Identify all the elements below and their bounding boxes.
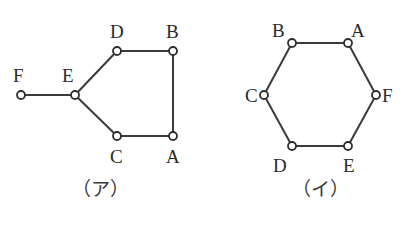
graph-node-b xyxy=(169,47,177,55)
graph-edge-f-e xyxy=(348,95,376,146)
graph-node-e xyxy=(344,142,352,150)
node-label-d: D xyxy=(110,21,124,42)
graph-edge-e-d xyxy=(75,51,117,95)
graph-node-c xyxy=(260,91,268,99)
node-label-c: C xyxy=(245,85,258,106)
node-label-b: B xyxy=(272,20,285,41)
figure-i: BACFDE（イ） xyxy=(245,20,393,200)
graph-node-a xyxy=(169,132,177,140)
node-label-f: F xyxy=(382,85,393,106)
node-label-e: E xyxy=(343,155,355,176)
node-label-a: A xyxy=(166,146,180,167)
graph-node-e xyxy=(71,91,79,99)
graph-edge-a-f xyxy=(348,43,376,95)
node-label-c: C xyxy=(110,146,123,167)
node-label-a: A xyxy=(351,20,365,41)
graph-node-d xyxy=(113,47,121,55)
figure-caption-figure-i: （イ） xyxy=(292,179,349,200)
node-label-f: F xyxy=(13,65,24,86)
node-label-e: E xyxy=(62,65,74,86)
graph-node-b xyxy=(288,39,296,47)
graph-node-f xyxy=(372,91,380,99)
graph-node-f xyxy=(17,91,25,99)
figure-a: FEDBCA（ア） xyxy=(13,21,180,200)
graph-edge-d-c xyxy=(264,95,292,146)
graph-node-c xyxy=(113,132,121,140)
node-label-d: D xyxy=(273,155,287,176)
graph-figures-canvas: FEDBCA（ア） BACFDE（イ） xyxy=(0,0,412,227)
node-label-b: B xyxy=(166,21,179,42)
graph-edge-c-e xyxy=(75,95,117,136)
graph-node-d xyxy=(288,142,296,150)
graph-edge-c-b xyxy=(264,43,292,95)
figure-caption-figure-a: （ア） xyxy=(72,179,129,200)
